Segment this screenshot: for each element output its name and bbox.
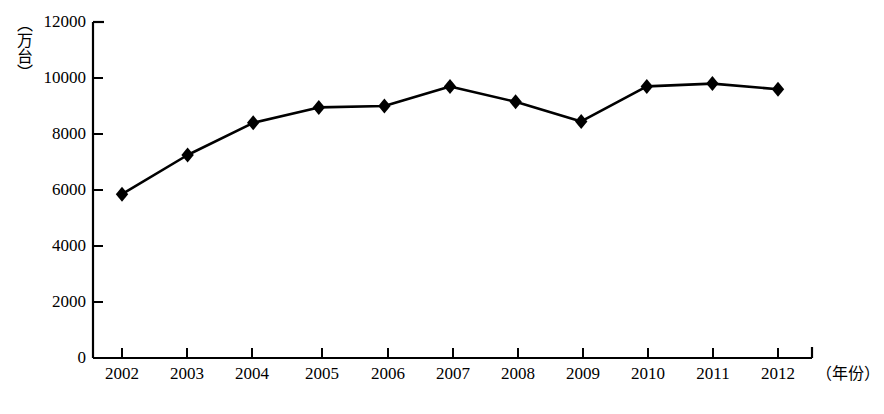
series-line (122, 84, 778, 195)
data-point-2002 (116, 187, 128, 202)
data-point-2011 (706, 76, 718, 91)
series-markers (116, 76, 784, 202)
data-point-2009 (575, 114, 587, 129)
data-point-2012 (772, 82, 784, 97)
chart-canvas (0, 0, 884, 414)
x-axis-ticks (122, 348, 778, 358)
data-point-2010 (641, 79, 653, 94)
data-point-2006 (378, 99, 390, 114)
data-point-2007 (444, 79, 456, 94)
data-point-2003 (181, 148, 193, 163)
data-point-2004 (247, 115, 259, 130)
data-point-2005 (313, 100, 325, 115)
line-chart: （万台） 12000 10000 8000 6000 4000 2000 0 2… (0, 0, 884, 414)
y-axis-ticks (93, 78, 103, 302)
data-point-2008 (509, 94, 521, 109)
